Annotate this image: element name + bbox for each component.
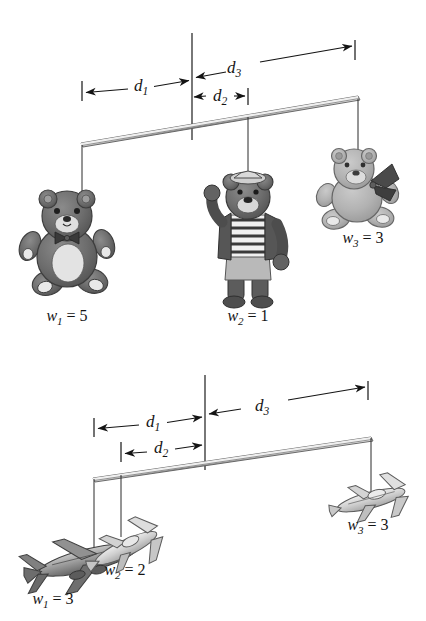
bottom-d3-label: d3 xyxy=(255,396,270,417)
teddy-bear-3 xyxy=(313,149,402,232)
top-panel-group: d3 d1 d2 xyxy=(15,33,402,327)
bottom-dimension-d2: d2 xyxy=(121,438,202,462)
top-dimension-d1: d1 xyxy=(82,76,189,101)
bottom-weight-2-label: w2 = 2 xyxy=(104,561,145,581)
bottom-weight-3-label: w3 = 3 xyxy=(347,516,388,536)
top-d1-label: d1 xyxy=(134,76,148,97)
teddy-bear-2 xyxy=(204,171,289,308)
figure-canvas: d3 d1 d2 xyxy=(0,0,426,621)
top-weight-3-label: w3 = 3 xyxy=(342,229,383,249)
bottom-weight-1-label: w1 = 3 xyxy=(32,590,73,610)
bottom-dimension-d3: d3 xyxy=(209,381,368,417)
top-weight-1-label: w1 = 5 xyxy=(46,307,87,327)
bottom-d1-label: d1 xyxy=(146,412,160,433)
top-d2-label: d2 xyxy=(213,86,228,107)
mobile-diagram-svg: d3 d1 d2 xyxy=(0,0,426,621)
top-dimension-d3: d3 xyxy=(196,40,355,79)
teddy-bear-1 xyxy=(15,190,118,299)
bottom-dimension-d1: d1 xyxy=(94,412,202,437)
bottom-d2-label: d2 xyxy=(154,438,169,459)
top-dimension-d2: d2 xyxy=(194,86,248,107)
top-weight-2-label: w2 = 1 xyxy=(227,307,268,327)
top-d3-label: d3 xyxy=(227,58,242,79)
bottom-balance-bar xyxy=(93,437,373,482)
bottom-panel-group: d3 d1 d2 xyxy=(18,375,413,610)
